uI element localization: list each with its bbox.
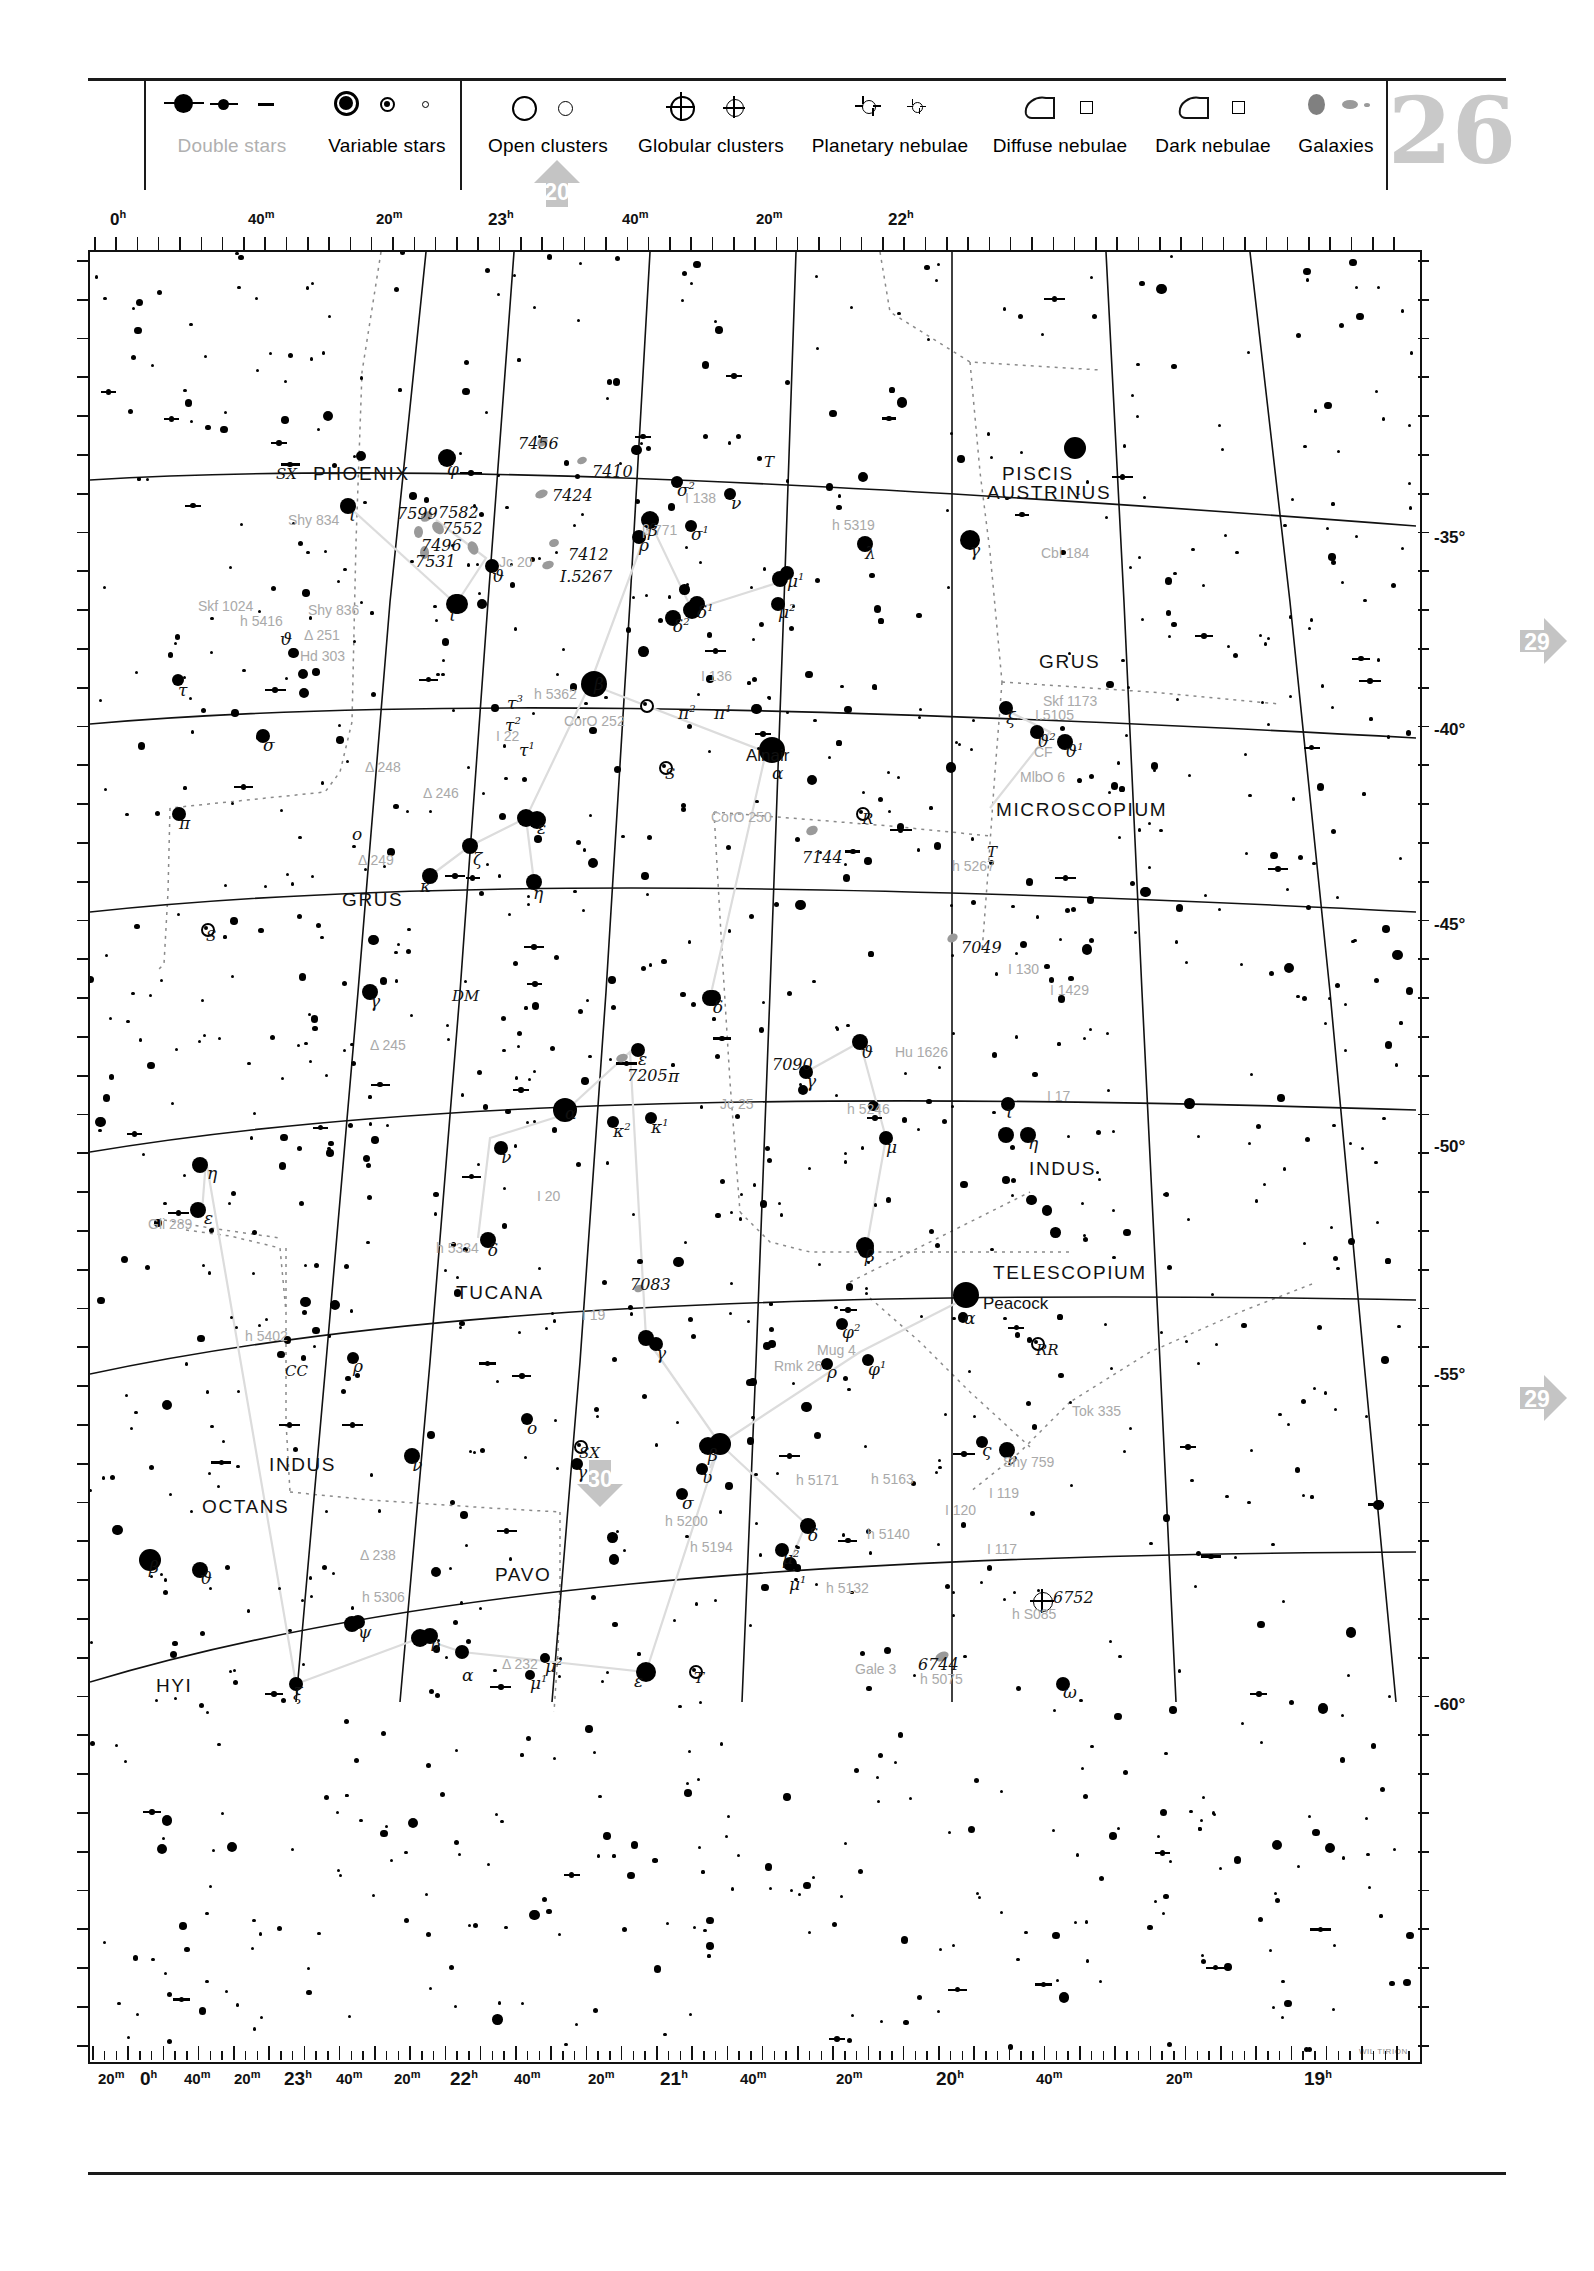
neighbour-chart-arrow-29[interactable]: 29: [1516, 1371, 1570, 1425]
ra-tick-bottom: [527, 2051, 529, 2060]
star-marker: [688, 940, 691, 943]
dec-tick-left: [77, 1618, 88, 1620]
star-marker: [125, 1394, 128, 1397]
star-marker: [1310, 1495, 1313, 1498]
star-marker: [1406, 1932, 1414, 1940]
ra-tick-bottom: [186, 2051, 188, 2060]
star-marker: [217, 1485, 220, 1488]
star-marker: [1130, 881, 1135, 886]
deep-sky-object-label: 6752: [1053, 1588, 1094, 1607]
star-marker: [844, 1160, 847, 1163]
star-marker: [1079, 1699, 1082, 1702]
star-bayer-label: δ: [488, 1240, 498, 1260]
star-marker: [477, 1070, 482, 1075]
star-marker: [317, 1932, 320, 1935]
star-marker: [452, 873, 458, 879]
ra-tick-bottom: [1197, 2051, 1199, 2060]
star-bayer-label: κ2: [613, 1121, 631, 1141]
star-marker: [591, 1595, 596, 1600]
double-star-catalogue-label: CorO 252: [564, 713, 625, 729]
neighbour-chart-arrow-30[interactable]: 30: [573, 1456, 627, 1510]
star-marker: [836, 740, 841, 745]
star-marker: [1377, 658, 1380, 661]
star-marker: [445, 1656, 448, 1659]
star-marker: [524, 1006, 527, 1009]
star-marker: [321, 781, 324, 784]
star-marker: [1160, 1850, 1166, 1856]
star-marker: [497, 474, 500, 477]
star-bayer-label: γ: [806, 1071, 816, 1091]
star-marker: [658, 618, 663, 623]
star-marker: [754, 1473, 757, 1476]
star-marker: [637, 1259, 642, 1264]
ra-tick-top: [690, 237, 692, 250]
star-marker: [1119, 786, 1124, 791]
star-marker: [844, 1152, 847, 1155]
star-marker: [950, 432, 953, 435]
dec-tick-right: [1418, 1696, 1429, 1698]
legend-label: Open clusters: [474, 135, 622, 157]
star-marker: [1260, 1741, 1263, 1744]
star-marker: [466, 1639, 471, 1644]
star-marker: [759, 622, 764, 627]
star-marker: [287, 1422, 293, 1428]
double-star-symbol: [152, 80, 312, 134]
dec-tick-left: [77, 726, 88, 728]
dec-tick-right: [1418, 1967, 1429, 1969]
ra-tick-top: [137, 237, 139, 250]
star-bayer-label: ε: [537, 818, 546, 838]
star-marker: [584, 702, 587, 705]
star-marker: [1241, 1722, 1244, 1725]
variable-star-label: CC: [285, 1362, 308, 1380]
star-marker: [1164, 1752, 1167, 1755]
neighbour-chart-arrow-20[interactable]: 20: [530, 157, 584, 211]
star-marker: [341, 1389, 346, 1394]
star-bayer-label: α: [462, 1665, 473, 1685]
star-marker: [637, 1652, 640, 1655]
star-marker: [847, 1388, 850, 1391]
ra-tick-bottom: [304, 2046, 306, 2060]
star-marker: [1170, 255, 1173, 258]
star-marker: [1382, 1117, 1385, 1120]
star-marker: [112, 1525, 122, 1535]
neighbour-chart-arrow-29[interactable]: 29: [1516, 614, 1570, 668]
star-marker: [230, 917, 238, 925]
star-bayer-label: φ1: [868, 1359, 886, 1379]
star-marker: [714, 320, 717, 323]
ra-tick-bottom: [456, 2051, 458, 2060]
star-marker: [350, 1309, 353, 1312]
ra-tick-top: [1287, 237, 1289, 250]
star-marker: [529, 1910, 539, 1920]
ra-tick-top: [563, 237, 565, 250]
star-marker: [1106, 681, 1114, 689]
star-marker: [693, 261, 701, 269]
star-marker: [206, 1390, 209, 1393]
legend-label: Globular clusters: [622, 135, 800, 157]
star-marker: [768, 697, 771, 700]
star-bayer-label: δ: [713, 997, 723, 1017]
star-marker: [298, 836, 301, 839]
star-marker: [1369, 717, 1372, 720]
star-marker: [878, 618, 883, 623]
star-marker: [1270, 852, 1278, 860]
dec-tick-right: [1418, 454, 1429, 456]
star-marker: [1050, 1227, 1060, 1237]
star-marker: [252, 1919, 255, 1922]
constellation-name: INDUS: [1029, 1158, 1096, 1180]
star-marker: [598, 1795, 601, 1798]
dec-tick-left: [77, 1308, 88, 1310]
star-marker: [1169, 1706, 1177, 1714]
double-star-catalogue-label: h 5267: [952, 858, 995, 874]
star-marker: [676, 1421, 679, 1424]
star-marker: [834, 1306, 837, 1309]
dec-tick-left: [77, 1890, 88, 1892]
star-marker: [106, 389, 112, 395]
star-marker: [555, 551, 558, 554]
star-marker: [769, 1302, 772, 1305]
star-marker: [470, 875, 476, 881]
star-marker: [673, 1257, 683, 1267]
dec-tick-left: [77, 1502, 88, 1504]
star-marker: [1406, 730, 1411, 735]
dec-tick-right: [1418, 1890, 1429, 1892]
double-star-catalogue-label: Shy 759: [1003, 1454, 1054, 1470]
